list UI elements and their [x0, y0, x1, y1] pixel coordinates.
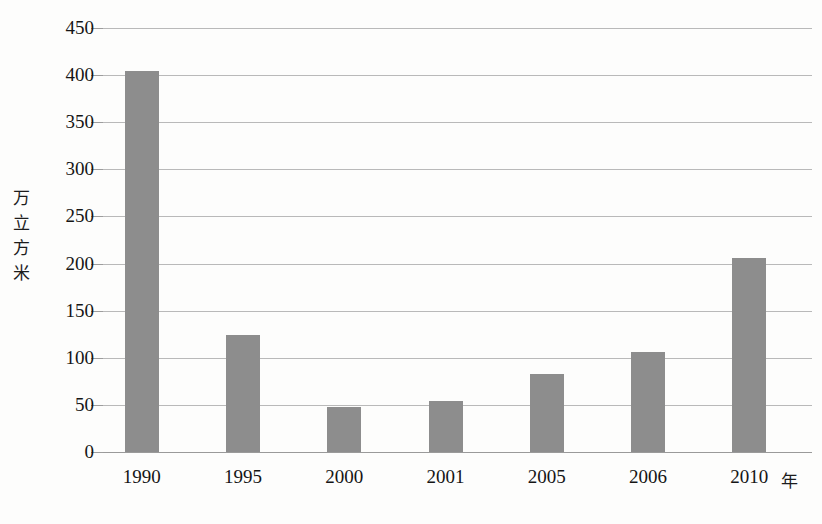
y-tick-label-0: 0 [85, 441, 95, 463]
y-tick-label-250: 250 [66, 205, 95, 227]
gridline-0: 0 [103, 452, 812, 453]
gridline-350: 350 [103, 122, 812, 123]
gridline-150: 150 [103, 311, 812, 312]
bar-2001 [429, 401, 463, 452]
y-tick-label-450: 450 [66, 17, 95, 39]
plot-area: 050100150200250300350400450 [103, 20, 812, 460]
y-tick-label-100: 100 [66, 346, 95, 368]
x-tick-label-2000: 2000 [301, 466, 387, 488]
y-tick-label-350: 350 [66, 111, 95, 133]
y-axis-title-char-4: 米 [8, 261, 34, 286]
gridline-100: 100 [103, 358, 812, 359]
gridline-250: 250 [103, 216, 812, 217]
gridline-400: 400 [103, 75, 812, 76]
x-tick-label-2001: 2001 [403, 466, 489, 488]
y-axis-title: 万 立 方 米 [8, 186, 34, 286]
bar-1990 [125, 71, 159, 452]
y-tick-label-50: 50 [75, 393, 94, 415]
gridline-200: 200 [103, 264, 812, 265]
x-axis-unit-label: 年 [781, 467, 798, 492]
y-tick-label-300: 300 [66, 158, 95, 180]
x-tick-label-2005: 2005 [504, 466, 590, 488]
bar-1995 [226, 335, 260, 452]
x-tick-label-2010: 2010 [706, 466, 792, 488]
y-axis-title-char-1: 万 [8, 186, 34, 211]
y-axis-title-char-2: 立 [8, 211, 34, 236]
bar-2000 [327, 407, 361, 452]
x-axis-labels: 1990199520002001200520062010年 [103, 466, 822, 500]
y-tick-label-200: 200 [66, 252, 95, 274]
x-tick-label-1995: 1995 [200, 466, 286, 488]
y-axis-title-char-3: 方 [8, 236, 34, 261]
gridline-300: 300 [103, 169, 812, 170]
y-tick-label-400: 400 [66, 64, 95, 86]
x-tick-label-1990: 1990 [99, 466, 185, 488]
bar-chart-figure: 万 立 方 米 050100150200250300350400450 1990… [0, 0, 822, 524]
gridline-450: 450 [103, 28, 812, 29]
bar-2010 [732, 258, 766, 452]
x-tick-label-2006: 2006 [605, 466, 691, 488]
y-tick-label-150: 150 [66, 299, 95, 321]
bar-2005 [530, 374, 564, 452]
bar-2006 [631, 352, 665, 452]
